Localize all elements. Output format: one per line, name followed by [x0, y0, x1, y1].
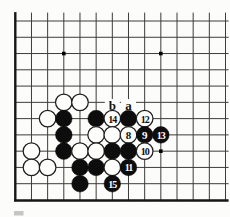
stone-white — [23, 159, 40, 176]
move-number: 15 — [108, 179, 117, 190]
stone-white — [72, 94, 89, 111]
stone-white — [104, 127, 121, 144]
move-number: 13 — [157, 130, 166, 141]
move-number: 12 — [141, 114, 150, 125]
move-number: 8 — [126, 129, 132, 141]
star-point — [159, 149, 163, 153]
stone-black — [72, 175, 89, 192]
go-diagram-page: ba14128913101115 — [0, 0, 230, 217]
stone-white — [56, 94, 73, 111]
stone-black — [56, 127, 73, 144]
stone-white — [88, 143, 105, 160]
star-point — [62, 52, 66, 56]
stone-white — [72, 143, 89, 160]
stone-white — [88, 127, 105, 144]
star-point — [159, 52, 163, 56]
go-board-svg: ba14128913101115 — [0, 0, 230, 217]
move-number: 10 — [141, 146, 150, 157]
stone-black — [72, 159, 89, 176]
move-number: 9 — [142, 129, 148, 141]
stone-white — [39, 110, 56, 127]
stone-black — [120, 110, 137, 127]
stone-black — [120, 143, 137, 160]
stone-black — [56, 110, 73, 127]
stone-white — [39, 159, 56, 176]
stone-white — [104, 159, 121, 176]
scan-artifact — [14, 211, 24, 216]
stone-black — [88, 110, 105, 127]
move-number: 11 — [125, 162, 133, 173]
stone-black — [88, 159, 105, 176]
move-number: 14 — [108, 114, 117, 125]
stone-black — [56, 143, 73, 160]
stone-black — [104, 143, 121, 160]
stone-white — [23, 143, 40, 160]
go-board: ba14128913101115 — [0, 0, 230, 217]
